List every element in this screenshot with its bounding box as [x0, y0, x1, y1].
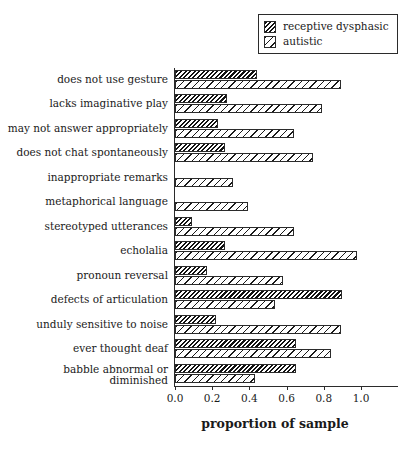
bar-autistic	[175, 349, 331, 358]
bar-receptive-dysphasic	[175, 70, 257, 79]
bar-group: inappropriate remarks	[175, 168, 361, 190]
bar-receptive-dysphasic	[175, 143, 225, 152]
x-tick-label: 0.6	[267, 392, 307, 404]
bar-group: lacks imaginative play	[175, 94, 361, 116]
bar-autistic	[175, 325, 341, 334]
category-label: metaphorical language	[0, 196, 168, 208]
legend-item-receptive-dysphasic: receptive dysphasic	[264, 19, 393, 34]
legend-item-autistic: autistic	[264, 34, 393, 49]
category-label: does not chat spontaneously	[0, 147, 168, 159]
bar-autistic	[175, 129, 294, 138]
bar-receptive-dysphasic	[175, 339, 296, 348]
bar-group: ever thought deaf	[175, 339, 361, 361]
bar-autistic	[175, 104, 322, 113]
bar-autistic	[175, 374, 255, 383]
category-label: stereotyped utterances	[0, 221, 168, 233]
x-tick	[249, 386, 250, 390]
x-axis-label: proportion of sample	[175, 416, 375, 431]
bar-receptive-dysphasic	[175, 241, 225, 250]
legend-swatch-receptive-dysphasic	[264, 21, 276, 33]
chart-legend: receptive dysphasic autistic	[258, 14, 398, 54]
bar-receptive-dysphasic	[175, 364, 296, 373]
x-tick-label: 0.0	[155, 392, 195, 404]
bar-autistic	[175, 80, 341, 89]
plot-area: does not use gesturelacks imaginative pl…	[175, 68, 361, 386]
bar-group: echolalia	[175, 241, 361, 263]
bar-receptive-dysphasic	[175, 290, 342, 299]
bar-autistic	[175, 227, 294, 236]
category-label: unduly sensitive to noise	[0, 319, 168, 331]
category-label: inappropriate remarks	[0, 172, 168, 184]
bar-group: does not use gesture	[175, 70, 361, 92]
category-label: does not use gesture	[0, 74, 168, 86]
category-label: defects of articulation	[0, 294, 168, 306]
bar-group: stereotyped utterances	[175, 217, 361, 239]
category-label: babble abnormal ordiminished	[0, 364, 168, 387]
bar-autistic	[175, 178, 233, 187]
x-tick	[287, 386, 288, 390]
category-label: ever thought deaf	[0, 343, 168, 355]
bar-receptive-dysphasic	[175, 315, 216, 324]
bar-receptive-dysphasic	[175, 119, 218, 128]
category-label: echolalia	[0, 245, 168, 257]
bar-group: may not answer appropriately	[175, 119, 361, 141]
legend-label-receptive-dysphasic: receptive dysphasic	[283, 20, 389, 33]
bar-group: unduly sensitive to noise	[175, 315, 361, 337]
bar-group: does not chat spontaneously	[175, 143, 361, 165]
bar-group: babble abnormal ordiminished	[175, 364, 361, 386]
legend-label-autistic: autistic	[283, 35, 322, 48]
bar-receptive-dysphasic	[175, 217, 192, 226]
x-tick	[212, 386, 213, 390]
category-label: lacks imaginative play	[0, 98, 168, 110]
bar-autistic	[175, 251, 357, 260]
category-label: pronoun reversal	[0, 270, 168, 282]
x-tick	[175, 386, 176, 390]
legend-swatch-autistic	[264, 36, 276, 48]
bar-receptive-dysphasic	[175, 94, 227, 103]
bar-autistic	[175, 276, 283, 285]
x-tick-label: 0.4	[229, 392, 269, 404]
x-tick-label: 0.2	[192, 392, 232, 404]
x-tick	[324, 386, 325, 390]
x-tick-label: 1.0	[341, 392, 381, 404]
x-tick	[361, 386, 362, 390]
x-tick-label: 0.8	[304, 392, 344, 404]
bar-group: defects of articulation	[175, 290, 361, 312]
bar-group: metaphorical language	[175, 192, 361, 214]
bar-chart: receptive dysphasic autistic does not us…	[0, 0, 402, 451]
bar-autistic	[175, 300, 275, 309]
bar-receptive-dysphasic	[175, 266, 207, 275]
bar-group: pronoun reversal	[175, 266, 361, 288]
bar-autistic	[175, 153, 313, 162]
bar-autistic	[175, 202, 248, 211]
category-label: may not answer appropriately	[0, 123, 168, 135]
